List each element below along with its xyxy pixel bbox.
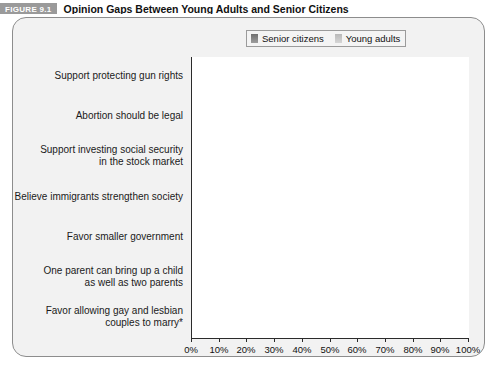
x-axis-tick bbox=[302, 338, 303, 342]
x-axis-tick bbox=[468, 338, 469, 342]
x-axis-tick-label: 40% bbox=[287, 344, 317, 355]
chart-legend: Senior citizens Young adults bbox=[246, 30, 406, 47]
legend-label: Young adults bbox=[346, 33, 401, 44]
x-axis-tick-label: 0% bbox=[176, 344, 206, 355]
x-axis-tick-label: 10% bbox=[204, 344, 234, 355]
category-label: Favor allowing gay and lesbian couples t… bbox=[3, 305, 183, 329]
square-swatch-icon bbox=[251, 34, 258, 43]
category-label: Support investing social security in the… bbox=[3, 144, 183, 168]
category-label: Favor smaller government bbox=[3, 231, 183, 243]
x-axis-tick-label: 50% bbox=[315, 344, 345, 355]
legend-item-senior-citizens: Senior citizens bbox=[251, 33, 324, 44]
figure-header: FIGURE 9.1 Opinion Gaps Between Young Ad… bbox=[0, 0, 497, 14]
x-axis-tick-label: 90% bbox=[425, 344, 455, 355]
x-axis-tick bbox=[357, 338, 358, 342]
x-axis-tick bbox=[219, 338, 220, 342]
category-label: Believe immigrants strengthen society bbox=[3, 191, 183, 203]
x-axis-tick bbox=[385, 338, 386, 342]
x-axis-tick-label: 30% bbox=[259, 344, 289, 355]
x-axis-tick bbox=[330, 338, 331, 342]
x-axis-tick-label: 60% bbox=[342, 344, 372, 355]
x-axis-tick bbox=[413, 338, 414, 342]
x-axis-tick-label: 20% bbox=[231, 344, 261, 355]
category-label: One parent can bring up a child as well … bbox=[3, 265, 183, 289]
x-axis-tick-label: 80% bbox=[398, 344, 428, 355]
x-axis-tick-label: 70% bbox=[370, 344, 400, 355]
page-title: Opinion Gaps Between Young Adults and Se… bbox=[64, 4, 349, 14]
figure-number-tag: FIGURE 9.1 bbox=[0, 3, 57, 14]
legend-item-young-adults: Young adults bbox=[335, 33, 401, 44]
category-label: Abortion should be legal bbox=[3, 110, 183, 122]
legend-label: Senior citizens bbox=[262, 33, 324, 44]
x-axis-tick bbox=[440, 338, 441, 342]
x-axis-tick bbox=[191, 338, 192, 342]
square-swatch-icon bbox=[335, 34, 342, 43]
x-axis-tick bbox=[246, 338, 247, 342]
x-axis-tick-label: 100% bbox=[453, 344, 483, 355]
x-axis-tick bbox=[274, 338, 275, 342]
category-label: Support protecting gun rights bbox=[3, 70, 183, 82]
plot-area bbox=[191, 57, 469, 338]
